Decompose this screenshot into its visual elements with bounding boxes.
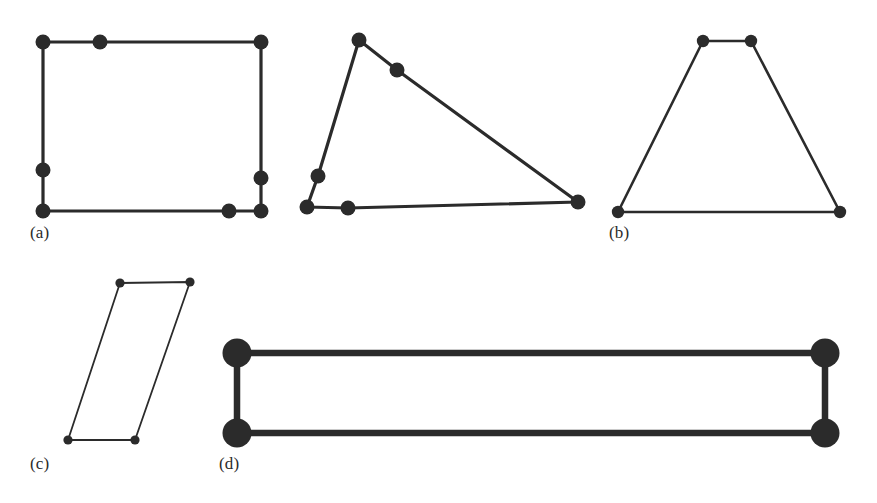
polygon-figure-canvas xyxy=(0,0,877,503)
panel-label-b: (b) xyxy=(609,224,629,241)
vertex-dot xyxy=(254,35,269,50)
vertex-dot xyxy=(254,171,269,186)
vertex-dot xyxy=(93,35,108,50)
vertex-dot xyxy=(254,204,269,219)
polygon-outline-trapezoid xyxy=(618,41,840,212)
vertex-dot xyxy=(571,195,586,210)
vertex-dot xyxy=(811,419,840,448)
polygon-outline-rectangle xyxy=(43,42,261,211)
vertex-dot xyxy=(36,35,51,50)
vertex-dot xyxy=(130,435,139,444)
polygon-parallelogram xyxy=(63,277,194,444)
vertex-dot xyxy=(300,200,315,215)
vertex-dot xyxy=(223,339,252,368)
vertex-dot xyxy=(63,435,72,444)
panel-label-c: (c) xyxy=(30,455,49,472)
vertex-dot xyxy=(115,278,124,287)
vertex-dot xyxy=(352,33,367,48)
polygon-trapezoid xyxy=(612,35,846,218)
vertex-dot xyxy=(745,35,757,47)
figure-container: (a) (b) (c) (d) xyxy=(0,0,877,503)
vertex-dot xyxy=(697,35,709,47)
vertex-dot xyxy=(36,163,51,178)
polygon-rectangle xyxy=(36,35,269,219)
polygon-wide-rectangle xyxy=(223,339,840,448)
vertex-dot xyxy=(36,204,51,219)
vertex-dot xyxy=(222,204,237,219)
vertex-dot xyxy=(811,339,840,368)
vertex-dot xyxy=(223,419,252,448)
vertex-dot xyxy=(311,169,326,184)
panel-label-d: (d) xyxy=(219,455,239,472)
polygon-outline-parallelogram xyxy=(68,282,190,440)
polygon-obtuse-triangle xyxy=(300,33,586,216)
vertex-dot xyxy=(834,206,846,218)
vertex-dot xyxy=(185,277,194,286)
vertex-dot xyxy=(341,201,356,216)
polygon-outline-wide-rectangle xyxy=(237,353,825,433)
panel-label-a: (a) xyxy=(30,224,49,241)
vertex-dot xyxy=(390,63,405,78)
vertex-dot xyxy=(612,206,624,218)
shape-layer xyxy=(36,33,847,448)
polygon-outline-obtuse-triangle xyxy=(307,40,578,208)
